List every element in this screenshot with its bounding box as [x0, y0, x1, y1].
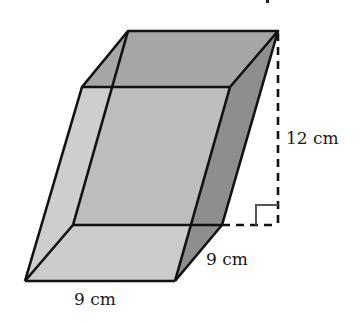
depth-label: 9 cm: [206, 249, 248, 269]
width-label: 9 cm: [74, 289, 116, 309]
right-angle-marker: [256, 205, 278, 225]
height-label: 12 cm: [286, 128, 339, 148]
oblique-prism-diagram: [0, 0, 364, 324]
